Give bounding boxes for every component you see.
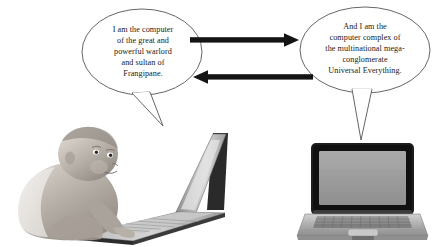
speech-bubble-left-tail — [132, 92, 163, 126]
speech-bubble-left — [82, 9, 202, 126]
baby-eye-left-pupil — [95, 151, 98, 154]
laptop-screen-glare — [319, 151, 406, 169]
baby-ear — [65, 152, 75, 165]
speech-bubble-right-body — [300, 7, 430, 93]
speech-bubble-right — [300, 7, 430, 140]
arrow-left-shaft — [208, 74, 313, 79]
laptop-photo — [297, 143, 428, 240]
baby-eye-right-pupil — [109, 154, 112, 157]
comic-scene: I am the computer of the great and power… — [0, 0, 439, 247]
scene-graphics — [0, 0, 439, 247]
laptop-trackpad-buttons — [352, 236, 374, 240]
laptop-trackpad — [348, 229, 378, 236]
baby-laptop-photo — [18, 127, 228, 245]
speech-bubble-left-body — [82, 9, 202, 95]
baby-cheek — [90, 160, 108, 174]
arrow-left — [193, 70, 313, 84]
speech-bubble-right-tail — [352, 89, 372, 140]
arrow-right-shaft — [190, 37, 284, 42]
speech-bubble-left-tail-joint — [133, 93, 150, 94]
arrow-right-head — [284, 33, 299, 47]
arrow-right — [190, 33, 299, 47]
